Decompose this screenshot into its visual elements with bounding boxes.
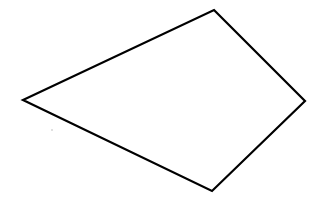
gray-speck: [51, 129, 53, 131]
quadrilateral-shape: [23, 10, 305, 191]
diagram-canvas: [0, 0, 316, 199]
